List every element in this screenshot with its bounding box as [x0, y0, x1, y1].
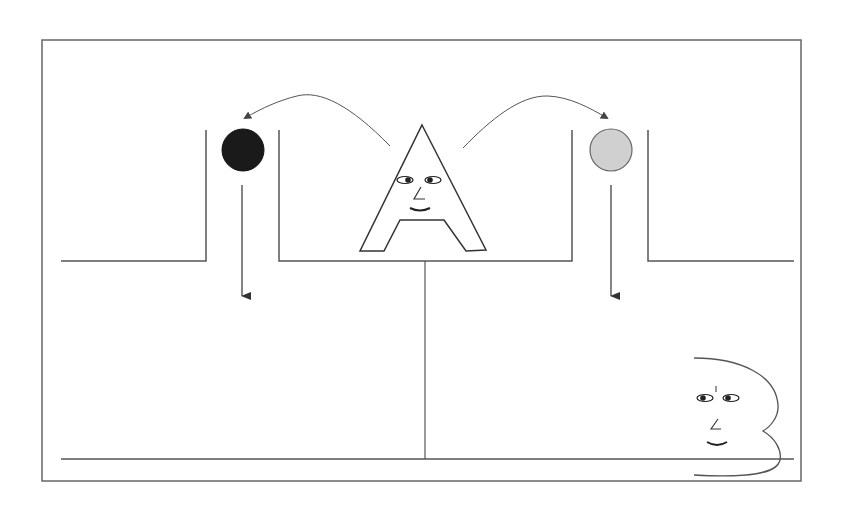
- arc-arrow-left: [245, 95, 390, 146]
- diagram-canvas: [0, 0, 844, 517]
- b-mouth: [707, 442, 727, 445]
- arc-arrow-right: [463, 96, 607, 148]
- letter-b-eyes: [697, 395, 739, 402]
- letter-b-outline: [694, 358, 780, 476]
- a-right-pupil: [427, 177, 433, 183]
- b-left-pupil: [700, 395, 706, 401]
- a-left-pupil: [405, 177, 411, 183]
- letter-b-character: [694, 358, 780, 476]
- b-right-pupil: [725, 395, 731, 401]
- wall-right-outer: [648, 130, 794, 261]
- diagram-stage: A B: [0, 0, 844, 517]
- b-nose: [711, 419, 721, 429]
- wall-left-outer: [61, 130, 206, 261]
- grey-ball: [590, 129, 632, 171]
- black-ball: [222, 129, 264, 171]
